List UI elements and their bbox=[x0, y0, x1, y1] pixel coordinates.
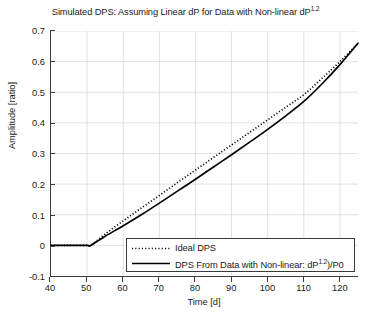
chart-title: Simulated DPS: Assuming Linear dP for Da… bbox=[0, 3, 371, 18]
y-tick-mark bbox=[50, 153, 55, 154]
y-tick-label: 0 bbox=[0, 241, 45, 251]
x-tick-mark bbox=[303, 277, 304, 282]
legend-solid-line-icon bbox=[131, 258, 171, 269]
y-tick-mark bbox=[50, 276, 55, 277]
x-tick-label: 70 bbox=[139, 283, 179, 293]
legend-item-nonlinear-dps: DPS From Data with Non-linear: dP1.2)/P0 bbox=[131, 256, 350, 271]
series-line-nonlinear-dps bbox=[51, 43, 358, 246]
series-line-ideal-dps bbox=[51, 43, 358, 246]
x-axis-label: Time [d] bbox=[50, 297, 358, 308]
x-tick-mark bbox=[339, 277, 340, 282]
x-tick-label: 60 bbox=[102, 283, 142, 293]
chart-figure: Simulated DPS: Assuming Linear dP for Da… bbox=[0, 0, 371, 319]
y-tick-label: 0.6 bbox=[0, 57, 45, 67]
x-tick-label: 40 bbox=[30, 283, 70, 293]
y-tick-label: 0.3 bbox=[0, 149, 45, 159]
x-tick-mark bbox=[158, 277, 159, 282]
legend-label-nonlinear-dps-suffix: )/P0 bbox=[327, 260, 344, 270]
y-tick-label: 0.5 bbox=[0, 88, 45, 98]
y-tick-mark bbox=[50, 30, 55, 31]
y-tick-label: 0.7 bbox=[0, 26, 45, 36]
y-tick-label: 0.2 bbox=[0, 180, 45, 190]
y-tick-mark bbox=[50, 92, 55, 93]
x-tick-label: 100 bbox=[247, 283, 287, 293]
legend-label-nonlinear-dps-exponent: 1.2 bbox=[318, 258, 327, 265]
x-tick-label: 80 bbox=[175, 283, 215, 293]
y-tick-label: -0.1 bbox=[0, 272, 45, 282]
y-tick-label: 0.4 bbox=[0, 118, 45, 128]
y-tick-mark bbox=[50, 123, 55, 124]
x-tick-mark bbox=[122, 277, 123, 282]
legend: Ideal DPS DPS From Data with Non-linear:… bbox=[126, 238, 355, 272]
x-tick-label: 120 bbox=[320, 283, 360, 293]
legend-label-nonlinear-dps: DPS From Data with Non-linear: dP1.2)/P0 bbox=[171, 256, 344, 271]
chart-title-exponent: 1.2 bbox=[311, 5, 320, 12]
x-tick-mark bbox=[267, 277, 268, 282]
y-tick-mark bbox=[50, 184, 55, 185]
legend-label-ideal-dps: Ideal DPS bbox=[171, 243, 216, 254]
y-tick-mark bbox=[50, 246, 55, 247]
y-tick-mark bbox=[50, 61, 55, 62]
x-tick-mark bbox=[194, 277, 195, 282]
x-tick-mark bbox=[231, 277, 232, 282]
legend-item-ideal-dps: Ideal DPS bbox=[131, 241, 350, 256]
x-tick-label: 110 bbox=[284, 283, 324, 293]
x-tick-mark bbox=[49, 277, 50, 282]
legend-dotted-line-icon bbox=[131, 243, 171, 254]
x-tick-label: 90 bbox=[211, 283, 251, 293]
x-tick-mark bbox=[86, 277, 87, 282]
chart-title-text: Simulated DPS: Assuming Linear dP for Da… bbox=[52, 7, 311, 17]
legend-label-nonlinear-dps-main: DPS From Data with Non-linear: dP bbox=[175, 260, 318, 270]
x-tick-label: 50 bbox=[66, 283, 106, 293]
y-tick-label: 0.1 bbox=[0, 211, 45, 221]
y-tick-mark bbox=[50, 215, 55, 216]
